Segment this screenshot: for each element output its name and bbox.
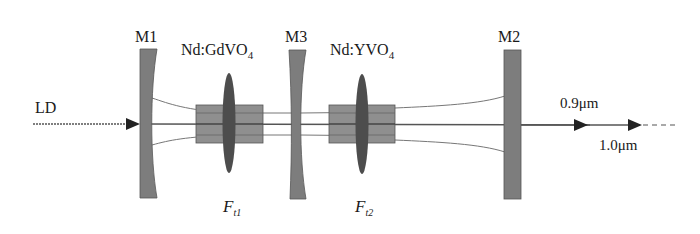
label-m3: M3 [285, 28, 307, 45]
laser-cavity-diagram: LD M1 M3 M2 Nd:GdVO4 Nd:YVO4 Ft1 Ft2 0.9… [0, 0, 700, 234]
output-arrow-1.0um-icon [628, 119, 642, 131]
label-ld: LD [35, 99, 56, 116]
pump-beam [33, 118, 140, 130]
label-m2: M2 [498, 28, 520, 45]
label-ft1: Ft1 [222, 197, 241, 218]
thermal-lens-ft2 [356, 74, 369, 174]
pump-arrow-icon [126, 118, 140, 130]
mirror-m2 [504, 50, 521, 199]
output-beam [521, 119, 676, 131]
diagram-svg: LD M1 M3 M2 Nd:GdVO4 Nd:YVO4 Ft1 Ft2 0.9… [0, 0, 700, 234]
label-m1: M1 [135, 28, 157, 45]
label-ft2: Ft2 [354, 197, 373, 218]
output-arrow-0.9um-icon [574, 119, 588, 131]
label-crystal1: Nd:GdVO4 [181, 41, 254, 61]
label-crystal2: Nd:YVO4 [330, 41, 395, 61]
thermal-lens-ft1 [223, 73, 236, 173]
label-output-0.9um: 0.9μm [560, 95, 599, 111]
label-output-1.0um: 1.0μm [599, 137, 638, 153]
